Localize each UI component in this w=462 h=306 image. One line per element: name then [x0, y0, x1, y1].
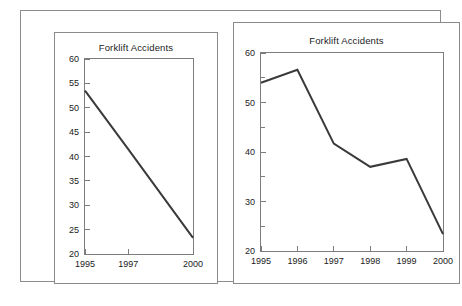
- line-series-left: [85, 59, 193, 254]
- outer-frame: Forklift Accidents 202530354045505560199…: [20, 10, 441, 282]
- y-tick-label: 45: [69, 127, 79, 137]
- y-tick-label: 60: [245, 48, 255, 58]
- x-tick-label: 1999: [397, 256, 417, 266]
- x-tick-label: 1997: [118, 259, 138, 269]
- chart-title-right: Forklift Accidents: [234, 35, 459, 46]
- chart-panel-right: Forklift Accidents 203040506019951996199…: [233, 22, 460, 284]
- x-tick-label: 2000: [433, 256, 453, 266]
- y-tick-label: 30: [69, 200, 79, 210]
- plot-area-left: [84, 58, 194, 255]
- y-tick-label: 50: [245, 98, 255, 108]
- y-tick-label: 35: [69, 176, 79, 186]
- x-tick-label: 1996: [287, 256, 307, 266]
- x-tick-label: 1995: [75, 259, 95, 269]
- x-tick-label: 2000: [183, 259, 203, 269]
- x-tick-label: 1997: [324, 256, 344, 266]
- line-series-right: [261, 53, 443, 251]
- y-tick-label: 55: [69, 78, 79, 88]
- figure-canvas: Forklift Accidents 202530354045505560199…: [0, 0, 462, 306]
- chart-panel-left: Forklift Accidents 202530354045505560199…: [54, 32, 218, 284]
- plot-area-right: [260, 52, 444, 252]
- y-tick-label: 20: [69, 249, 79, 259]
- y-tick-label: 40: [69, 152, 79, 162]
- x-tick-label: 1995: [251, 256, 271, 266]
- chart-title-left: Forklift Accidents: [55, 42, 217, 53]
- y-tick-label: 25: [69, 225, 79, 235]
- y-tick-label: 40: [245, 147, 255, 157]
- y-tick-label: 20: [245, 246, 255, 256]
- y-tick-label: 60: [69, 54, 79, 64]
- y-tick-label: 30: [245, 197, 255, 207]
- x-tick-label: 1998: [360, 256, 380, 266]
- y-tick-label: 50: [69, 103, 79, 113]
